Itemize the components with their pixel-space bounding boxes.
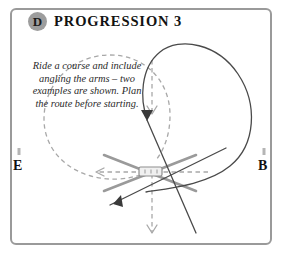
card-header: D PROGRESSION 3 [28, 12, 182, 31]
centre-jump-icon [139, 167, 162, 176]
solid-diagonal-exit-path [110, 148, 226, 205]
progression-badge: D [28, 12, 47, 31]
arena-diagram [0, 0, 283, 266]
arrowhead-solid-upper-icon [141, 110, 153, 121]
progression-card: D PROGRESSION 3 Ride a course and includ… [0, 0, 283, 266]
page-title: PROGRESSION 3 [54, 13, 182, 30]
arena-marker-e: E [13, 158, 22, 174]
instruction-text: Ride a course and include angling the ar… [30, 60, 144, 110]
arrowhead-solid-lower-icon [113, 195, 123, 207]
arena-marker-b: B [258, 158, 267, 174]
